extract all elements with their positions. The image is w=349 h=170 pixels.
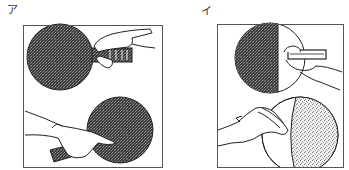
- illustration: [0, 0, 349, 170]
- paddle-i-top: [235, 23, 326, 93]
- paddle-i-bottom: [262, 97, 338, 170]
